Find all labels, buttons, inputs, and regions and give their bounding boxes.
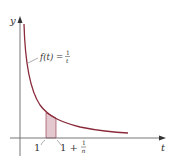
function-label: f(t) = [39,52,63,62]
x-axis-label: t [161,142,166,153]
lower-bound-label: 1 [34,142,40,153]
lower-bound-leader [41,140,45,145]
function-label-leader [28,58,38,63]
upper-bound-fraction-numerator: 1 [82,139,86,146]
function-graph: y t f(t) = 1 t 1 1 + 1 n [0,0,177,167]
curve-f-of-t [24,24,128,133]
y-axis-label: y [9,15,16,26]
function-fraction-denominator: t [66,57,69,64]
shaded-area [46,113,56,139]
y-axis-arrow-icon [18,16,23,23]
upper-bound-fraction-denominator: n [82,147,86,154]
upper-bound-label: 1 + [60,142,78,153]
function-fraction-numerator: 1 [66,49,70,56]
x-axis-arrow-icon [159,136,166,141]
